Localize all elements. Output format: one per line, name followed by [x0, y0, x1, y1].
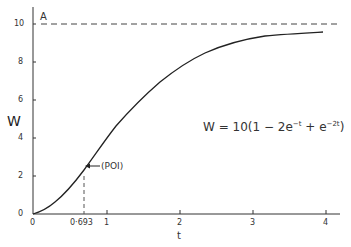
y-tick-8: 8 [18, 57, 23, 66]
x-ticks [107, 210, 326, 214]
y-tick-4: 4 [18, 133, 23, 142]
x-tick-1: 1 [104, 218, 109, 227]
x-tick-0693: 0·693 [70, 218, 93, 227]
y-axis-label: W [7, 113, 21, 129]
poi-label: (POI) [101, 161, 123, 171]
x-tick-3: 3 [250, 218, 255, 227]
x-tick-4: 4 [323, 218, 328, 227]
equation-end: ) [340, 120, 345, 134]
y-tick-2: 2 [18, 171, 23, 180]
y-tick-0: 0 [18, 209, 23, 218]
y-tick-6: 6 [18, 95, 23, 104]
x-tick-2: 2 [177, 218, 182, 227]
y-tick-10: 10 [14, 19, 24, 28]
chart: 0 2 4 6 8 10 0 0·693 1 2 3 4 W t A (POI)… [0, 0, 351, 247]
asymptote-label: A [40, 11, 47, 22]
equation-exp2: −2t [327, 120, 340, 128]
equation-main: W = 10(1 − 2e [203, 120, 293, 134]
equation-mid: + e [301, 120, 326, 134]
x-axis-label: t [177, 230, 181, 241]
equation-label: W = 10(1 − 2e−t + e−2t) [203, 120, 344, 134]
x-tick-0: 0 [30, 218, 35, 227]
